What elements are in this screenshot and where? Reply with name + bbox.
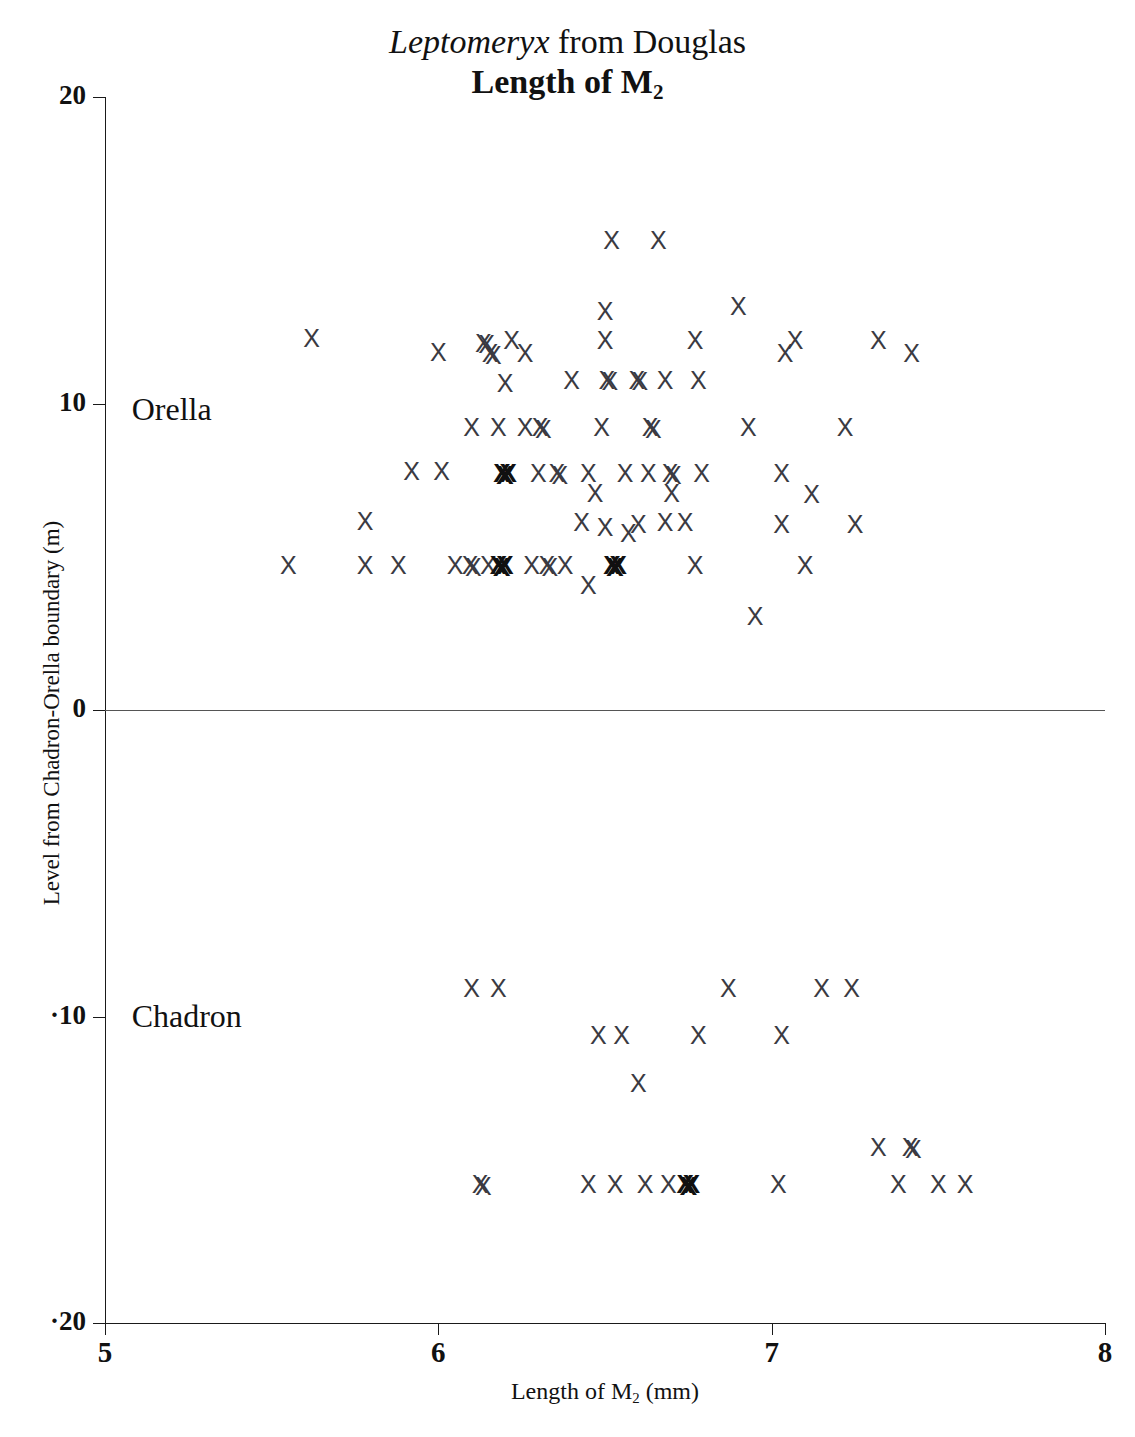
data-marker-chadron: X <box>867 1135 889 1160</box>
data-marker-orella: X <box>514 341 536 366</box>
x-tick-mark <box>772 1323 773 1335</box>
data-marker-orella: X <box>834 415 856 440</box>
title-line-2: Length of M2 <box>0 62 1135 102</box>
data-marker-orella: X <box>487 415 509 440</box>
data-marker-orella: X <box>577 573 599 598</box>
data-marker-chadron: X <box>487 976 509 1001</box>
data-marker-chadron: X <box>604 1172 626 1197</box>
data-marker-orella: X <box>771 512 793 537</box>
data-marker-orella: X <box>599 369 621 394</box>
data-marker-orella: X <box>801 482 823 507</box>
data-marker-orella: X <box>687 368 709 393</box>
data-marker-orella: X <box>554 553 576 578</box>
data-marker-orella: X <box>654 368 676 393</box>
data-marker-orella: X <box>301 326 323 351</box>
data-marker-orella: X <box>497 461 519 486</box>
data-marker-orella: X <box>584 481 606 506</box>
title-line-1: Leptomeryx from Douglas <box>0 22 1135 62</box>
data-marker-orella: X <box>771 461 793 486</box>
data-marker-chadron: X <box>811 976 833 1001</box>
data-marker-orella: X <box>277 553 299 578</box>
y-tick-label: ·20 <box>0 1306 86 1337</box>
x-tick-label: 7 <box>742 1336 802 1369</box>
data-marker-chadron: X <box>927 1172 949 1197</box>
data-marker-orella: X <box>642 417 664 442</box>
data-marker-chadron: X <box>472 1174 494 1199</box>
y-tick-mark <box>93 710 105 711</box>
y-tick-label: 10 <box>0 387 86 418</box>
data-marker-orella: X <box>654 510 676 535</box>
data-marker-orella: X <box>661 481 683 506</box>
data-marker-orella: X <box>494 371 516 396</box>
data-marker-chadron: X <box>611 1023 633 1048</box>
data-marker-orella: X <box>494 553 516 578</box>
data-marker-orella: X <box>431 459 453 484</box>
data-marker-orella: X <box>744 604 766 629</box>
data-marker-orella: X <box>844 512 866 537</box>
data-marker-orella: X <box>691 461 713 486</box>
data-marker-orella: X <box>727 294 749 319</box>
data-marker-orella: X <box>684 553 706 578</box>
x-axis-title-suffix: (mm) <box>640 1378 699 1404</box>
data-marker-orella: X <box>901 341 923 366</box>
plot-canvas: Leptomeryx from Douglas Length of M2 Lev… <box>0 0 1135 1437</box>
data-marker-orella: X <box>427 340 449 365</box>
x-axis-title: Length of M2 (mm) <box>105 1378 1105 1405</box>
data-marker-chadron: X <box>887 1172 909 1197</box>
y-tick-mark <box>93 1017 105 1018</box>
data-marker-orella: X <box>594 515 616 540</box>
data-marker-orella: X <box>594 299 616 324</box>
data-marker-orella: X <box>684 328 706 353</box>
data-marker-chadron: X <box>771 1023 793 1048</box>
data-marker-orella: X <box>461 415 483 440</box>
x-tick-mark <box>105 1323 106 1335</box>
y-tick-label: 0 <box>0 693 86 724</box>
data-marker-orella: X <box>571 510 593 535</box>
data-marker-chadron: X <box>954 1172 976 1197</box>
y-tick-mark <box>93 97 105 98</box>
x-axis-title-prefix: Length of M <box>511 1378 632 1404</box>
data-marker-orella: X <box>594 328 616 353</box>
data-marker-chadron: X <box>681 1172 703 1197</box>
data-marker-chadron: X <box>461 976 483 1001</box>
data-marker-orella: X <box>614 461 636 486</box>
data-marker-orella: X <box>561 368 583 393</box>
title-subtitle-prefix: Length of M <box>472 63 653 100</box>
data-marker-chadron: X <box>767 1172 789 1197</box>
data-marker-orella: X <box>354 553 376 578</box>
data-marker-orella: X <box>607 553 629 578</box>
data-marker-orella: X <box>794 553 816 578</box>
y-tick-label: ·10 <box>0 1000 86 1031</box>
data-marker-orella: X <box>532 417 554 442</box>
data-marker-orella: X <box>387 553 409 578</box>
y-tick-label: 20 <box>0 80 86 111</box>
data-marker-chadron: X <box>577 1172 599 1197</box>
data-marker-chadron: X <box>902 1137 924 1162</box>
data-marker-chadron: X <box>717 976 739 1001</box>
data-marker-orella: X <box>591 415 613 440</box>
x-tick-mark <box>438 1323 439 1335</box>
x-tick-label: 5 <box>75 1336 135 1369</box>
data-marker-chadron: X <box>687 1023 709 1048</box>
data-marker-orella: X <box>674 510 696 535</box>
data-marker-orella: X <box>867 328 889 353</box>
data-marker-chadron: X <box>634 1172 656 1197</box>
title-subtitle-subscript: 2 <box>653 80 664 104</box>
data-marker-orella: X <box>629 369 651 394</box>
data-marker-chadron: X <box>627 1071 649 1096</box>
data-marker-orella: X <box>627 512 649 537</box>
x-tick-label: 6 <box>408 1336 468 1369</box>
y-tick-mark <box>93 404 105 405</box>
data-marker-orella: X <box>401 459 423 484</box>
data-marker-orella: X <box>549 463 571 488</box>
y-tick-mark <box>93 1323 105 1324</box>
chadron-orella-boundary-line <box>105 710 1105 711</box>
data-marker-orella: X <box>354 509 376 534</box>
data-marker-orella: X <box>774 341 796 366</box>
data-marker-orella: X <box>601 228 623 253</box>
chart-title: Leptomeryx from Douglas Length of M2 <box>0 22 1135 102</box>
data-marker-chadron: X <box>841 976 863 1001</box>
data-marker-orella: X <box>637 461 659 486</box>
unit-label-chadron: Chadron <box>132 998 242 1035</box>
x-tick-mark <box>1105 1323 1106 1335</box>
